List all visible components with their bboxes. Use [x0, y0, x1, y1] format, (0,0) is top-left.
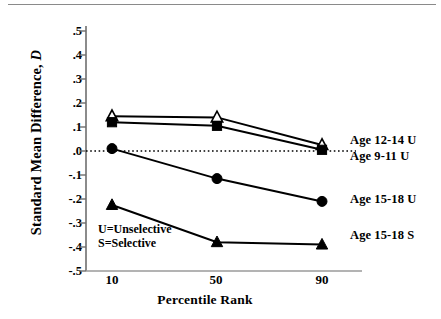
- y-axis-ticks: [80, 31, 86, 271]
- data-point-1-1: [212, 121, 221, 130]
- data-point-2-2: [317, 196, 327, 206]
- chart-figure: Standard Mean Difference, D Percentile R…: [0, 0, 441, 319]
- data-point-1-0: [107, 118, 116, 127]
- data-point-3-0: [106, 199, 117, 210]
- data-point-2-1: [212, 174, 222, 184]
- series-markers: [106, 110, 327, 249]
- data-point-2-0: [107, 144, 117, 154]
- plot-canvas: [0, 0, 441, 319]
- data-point-1-2: [317, 145, 326, 154]
